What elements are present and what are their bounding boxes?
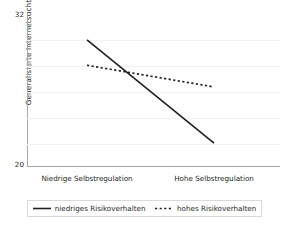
legend: niedriges Risikoverhalten hohes Risikove… xyxy=(27,200,262,217)
chart-figure: Generalisierte Internetsucht 32 20 Niedr… xyxy=(0,0,289,225)
legend-label-hohes-risikoverhalten: hohes Risikoverhalten xyxy=(177,204,256,213)
y-tick-label-top: 32 xyxy=(2,10,24,19)
plot-area xyxy=(27,13,280,166)
legend-solid-line-icon xyxy=(33,205,51,212)
legend-entry-niedriges-risikoverhalten: niedriges Risikoverhalten xyxy=(33,204,146,213)
y-tick-label-bottom: 20 xyxy=(2,160,24,169)
x-category-label-low-selfregulation: Niedrige Selbstregulation xyxy=(41,174,132,183)
x-axis-line xyxy=(27,166,280,167)
x-category-label-high-selfregulation: Hohe Selbstregulation xyxy=(174,174,254,183)
legend-entry-hohes-risikoverhalten: hohes Risikoverhalten xyxy=(155,204,256,213)
legend-dotted-line-icon xyxy=(155,205,173,212)
series-line-niedriges-risikoverhalten xyxy=(87,40,214,143)
series-layer xyxy=(27,13,280,166)
legend-label-niedriges-risikoverhalten: niedriges Risikoverhalten xyxy=(55,204,146,213)
y-axis-tick-labels: 32 20 xyxy=(0,0,24,180)
series-line-hohes-risikoverhalten xyxy=(87,65,214,87)
